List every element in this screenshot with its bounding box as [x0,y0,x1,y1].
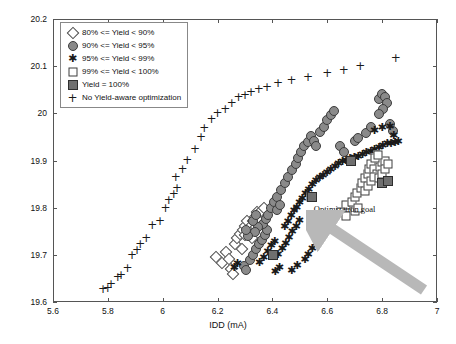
y-tick [53,19,57,20]
data-point [268,250,278,260]
legend-label: 95% <= Yield < 99% [80,54,154,63]
y-tick-label: 20.2 [0,14,47,24]
x-tick-label: 6.8 [376,306,388,316]
y-tick-label: 19.7 [0,250,47,260]
y-tick-label: 20 [0,108,47,118]
y-tick-right [433,161,437,162]
legend-label: No Yield-aware optimization [80,93,181,102]
legend: 80% <= Yield < 90%90% <= Yield < 95%✱95%… [60,22,188,108]
legend-item: ✱95% <= Yield < 99% [65,52,181,65]
y-tick [53,208,57,209]
y-tick-label: 19.8 [0,203,47,213]
y-tick-label: 20.1 [0,61,47,71]
x-tick-label: 5.8 [102,306,114,316]
data-point: + [155,217,165,225]
legend-item: Yield = 100% [65,78,181,91]
legend-item: 99% <= Yield < 100% [65,65,181,78]
data-point: ✱ [233,260,242,268]
legend-item: 90% <= Yield < 95% [65,39,181,52]
data-point [374,150,383,159]
data-point: ✱ [389,132,398,140]
legend-label: Yield = 100% [80,80,129,89]
x-tick-top [327,19,328,23]
data-point: + [182,156,192,164]
x-tick-top [382,19,383,23]
data-point [251,210,261,220]
data-point: + [273,79,283,87]
x-axis-title: IDD (mA) [0,320,456,330]
data-point: + [262,83,272,91]
x-tick-label: 6.4 [267,306,279,316]
data-point [374,109,384,119]
data-point: + [339,66,349,74]
data-point: + [123,264,133,272]
x-tick-label: 7 [435,306,440,316]
chart-page: 5.65.866.26.46.66.8719.619.719.819.92020… [0,0,456,344]
x-tick [218,298,219,302]
y-tick-right [433,113,437,114]
legend-item: 80% <= Yield < 90% [65,26,181,39]
data-point: + [303,73,313,81]
x-tick [108,298,109,302]
y-tick-right [433,302,437,303]
data-point [311,141,321,151]
optimization-goal-arrow [306,210,436,300]
data-point [329,106,339,116]
y-tick [53,161,57,162]
data-point [275,200,285,210]
y-tick-right [433,66,437,67]
data-point: ✱ [295,217,304,225]
data-point: + [141,234,151,242]
legend-marker-open-square-icon [65,65,80,78]
legend-marker-asterisk-icon: ✱ [65,52,80,65]
data-point: + [172,184,182,192]
data-point: ✱ [293,262,302,270]
data-point [241,225,251,235]
legend-item: +No Yield-aware optimization [65,91,181,104]
x-tick-label: 5.6 [47,306,59,316]
data-point: + [322,69,332,77]
data-point [384,160,393,169]
y-tick-right [433,208,437,209]
x-tick [437,298,438,302]
x-tick-label: 6.2 [212,306,224,316]
x-tick-label: 6 [160,306,165,316]
legend-label: 99% <= Yield < 100% [80,67,159,76]
legend-marker-filled-circle-icon [65,39,80,52]
data-point [346,156,356,166]
legend-label: 90% <= Yield < 95% [80,41,154,50]
legend-marker-plus-icon: + [65,91,80,104]
x-tick-top [272,19,273,23]
y-tick-label: 19.9 [0,156,47,166]
data-point: + [355,62,365,70]
x-tick-top [218,19,219,23]
data-point [383,176,393,186]
x-tick [163,298,164,302]
x-tick [272,298,273,302]
y-tick-right [433,19,437,20]
y-tick [53,113,57,114]
y-tick-label: 19.6 [0,297,47,307]
x-tick-label: 6.6 [321,306,333,316]
legend-label: 80% <= Yield < 90% [80,28,154,37]
y-tick [53,66,57,67]
legend-marker-open-diamond-icon [65,26,80,39]
data-point: + [391,54,401,62]
data-point: + [287,76,297,84]
y-tick [53,302,57,303]
y-tick [53,255,57,256]
data-point [307,192,317,202]
data-point: + [190,145,200,153]
data-point [241,265,251,275]
x-tick-top [437,19,438,23]
data-point: ✱ [275,264,284,272]
legend-marker-filled-square-icon [65,78,80,91]
